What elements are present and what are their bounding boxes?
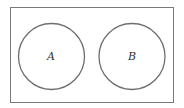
set-b-label: B xyxy=(127,50,136,63)
universal-set-rectangle xyxy=(11,8,174,103)
set-a-label: A xyxy=(46,50,55,63)
venn-diagram: A B xyxy=(0,0,184,108)
